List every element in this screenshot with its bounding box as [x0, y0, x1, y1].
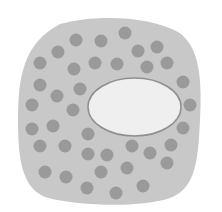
granule [39, 166, 52, 179]
granule [47, 120, 60, 133]
granule [161, 157, 174, 170]
granule [101, 149, 114, 162]
granule [89, 57, 102, 70]
granule [144, 147, 157, 160]
granule [95, 166, 108, 179]
granule [95, 35, 108, 48]
granule [110, 187, 123, 200]
granule [161, 57, 174, 70]
granule [82, 128, 95, 141]
granule [126, 140, 139, 153]
granule [68, 63, 81, 76]
granule [60, 171, 73, 184]
granule [137, 180, 150, 193]
granule [119, 27, 132, 40]
granule [81, 182, 94, 195]
cell-illustration [0, 0, 222, 212]
granule [184, 99, 197, 112]
granule [34, 57, 47, 70]
granule [141, 61, 154, 74]
nucleus [88, 78, 181, 136]
granule [59, 140, 72, 153]
granule [26, 99, 39, 112]
granule [52, 46, 65, 59]
granule [165, 139, 178, 152]
granule [121, 162, 134, 175]
granule [34, 140, 47, 153]
granule [151, 41, 164, 54]
granule [34, 79, 47, 92]
granule [70, 34, 83, 47]
granule [74, 83, 87, 96]
cell-diagram [0, 0, 222, 212]
granule [51, 90, 64, 103]
granule [177, 122, 190, 135]
granule [67, 104, 80, 117]
granule [177, 76, 190, 89]
granule [111, 58, 124, 71]
granule [82, 148, 95, 161]
granule [26, 123, 39, 136]
granule [132, 45, 145, 58]
